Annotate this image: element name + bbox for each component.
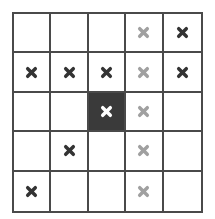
grid-cell-r3-c3[interactable] [126, 132, 163, 171]
grid-cell-r3-c2[interactable] [89, 132, 126, 171]
gray-x-icon [137, 185, 150, 198]
grid-cell-r0-c0[interactable] [14, 14, 51, 53]
grid-cell-r1-c0[interactable] [14, 53, 51, 92]
grid-cell-r2-c3[interactable] [126, 93, 163, 132]
grid-cell-r3-c0[interactable] [14, 132, 51, 171]
x-mark-icon [100, 66, 113, 79]
grid-cell-r4-c1[interactable] [51, 172, 88, 211]
gray-x-icon [137, 105, 150, 118]
grid-board [12, 12, 203, 213]
grid-cell-r0-c3[interactable] [126, 14, 163, 53]
grid-cell-r4-c0[interactable] [14, 172, 51, 211]
grid-cell-r2-c2[interactable] [89, 93, 126, 132]
grid-cell-r2-c1[interactable] [51, 93, 88, 132]
gray-x-icon [137, 26, 150, 39]
x-mark-icon [25, 185, 38, 198]
grid-cell-r4-c2[interactable] [89, 172, 126, 211]
grid-cell-r4-c3[interactable] [126, 172, 163, 211]
x-mark-icon [25, 66, 38, 79]
grid-cell-r1-c3[interactable] [126, 53, 163, 92]
gray-x-icon [137, 66, 150, 79]
grid-cell-r2-c0[interactable] [14, 93, 51, 132]
grid-cell-r0-c2[interactable] [89, 14, 126, 53]
grid-cell-r0-c1[interactable] [51, 14, 88, 53]
x-mark-icon [63, 66, 76, 79]
grid-cell-r4-c4[interactable] [164, 172, 201, 211]
grid-cell-r3-c4[interactable] [164, 132, 201, 171]
x-mark-icon [176, 26, 189, 39]
grid-cell-r2-c4[interactable] [164, 93, 201, 132]
white-x-icon [100, 105, 113, 118]
x-mark-icon [176, 66, 189, 79]
grid-cell-r1-c2[interactable] [89, 53, 126, 92]
grid-cell-r1-c4[interactable] [164, 53, 201, 92]
grid-cell-r0-c4[interactable] [164, 14, 201, 53]
x-mark-icon [63, 144, 76, 157]
grid-cell-r1-c1[interactable] [51, 53, 88, 92]
grid-cell-r3-c1[interactable] [51, 132, 88, 171]
gray-x-icon [137, 144, 150, 157]
